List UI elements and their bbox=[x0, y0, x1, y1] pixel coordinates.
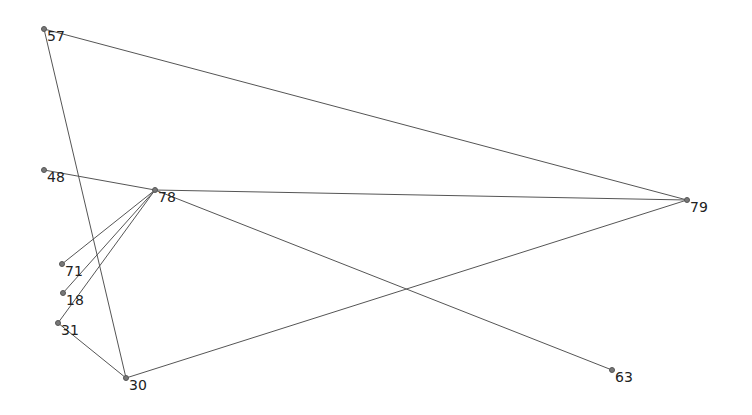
node-79[interactable]: 79 bbox=[685, 198, 708, 216]
node-71[interactable]: 71 bbox=[60, 262, 83, 280]
edge-30-79 bbox=[126, 200, 687, 378]
node-marker[interactable] bbox=[610, 368, 615, 373]
node-marker[interactable] bbox=[61, 291, 66, 296]
node-marker[interactable] bbox=[685, 198, 690, 203]
edges-layer bbox=[44, 29, 687, 378]
node-78[interactable]: 78 bbox=[153, 188, 176, 206]
node-18[interactable]: 18 bbox=[61, 291, 84, 309]
node-label: 18 bbox=[66, 292, 84, 308]
edge-78-79 bbox=[155, 190, 687, 200]
node-label: 30 bbox=[129, 377, 147, 393]
node-63[interactable]: 63 bbox=[610, 368, 633, 386]
node-label: 78 bbox=[158, 189, 176, 205]
node-marker[interactable] bbox=[60, 262, 65, 267]
node-label: 57 bbox=[47, 28, 65, 44]
node-label: 79 bbox=[690, 199, 708, 215]
nodes-layer: 574878797118313063 bbox=[42, 27, 708, 394]
edge-78-63 bbox=[155, 190, 612, 370]
network-graph: 574878797118313063 bbox=[0, 0, 752, 415]
edge-57-30 bbox=[44, 29, 126, 378]
edge-78-71 bbox=[62, 190, 155, 264]
node-marker[interactable] bbox=[42, 27, 47, 32]
node-label: 71 bbox=[65, 263, 83, 279]
node-marker[interactable] bbox=[42, 168, 47, 173]
node-marker[interactable] bbox=[56, 321, 61, 326]
edge-57-79 bbox=[44, 29, 687, 200]
node-marker[interactable] bbox=[124, 376, 129, 381]
node-48[interactable]: 48 bbox=[42, 168, 65, 186]
node-marker[interactable] bbox=[153, 188, 158, 193]
node-label: 48 bbox=[47, 169, 65, 185]
node-label: 63 bbox=[615, 369, 633, 385]
node-label: 31 bbox=[61, 322, 79, 338]
node-30[interactable]: 30 bbox=[124, 376, 147, 394]
node-31[interactable]: 31 bbox=[56, 321, 79, 339]
